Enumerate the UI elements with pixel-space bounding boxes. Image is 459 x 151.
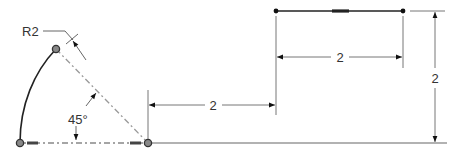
construction-line-diagonal[interactable] <box>56 49 148 143</box>
endpoint-icon[interactable] <box>274 9 279 14</box>
sketch-canvas: R2 45° 2 2 2 <box>0 0 459 151</box>
point-bottom-right[interactable] <box>144 139 151 146</box>
dimension-value: 2 <box>209 98 216 113</box>
point-bottom-left[interactable] <box>16 139 23 146</box>
arc-r2[interactable] <box>20 49 56 143</box>
dimension-top-horizontal[interactable]: 2 <box>277 50 402 65</box>
dimension-vertical[interactable]: 2 <box>431 12 438 142</box>
angle-label: 45° <box>68 112 88 127</box>
dimension-value: 2 <box>336 50 343 65</box>
point-apex[interactable] <box>52 45 59 52</box>
dimension-bottom-horizontal[interactable]: 2 <box>149 98 275 113</box>
dimension-value: 2 <box>431 71 438 86</box>
radius-label: R2 <box>22 24 39 39</box>
radius-dimension[interactable]: R2 <box>22 24 86 60</box>
angle-dimension[interactable]: 45° <box>68 93 96 140</box>
endpoint-icon[interactable] <box>401 9 406 14</box>
